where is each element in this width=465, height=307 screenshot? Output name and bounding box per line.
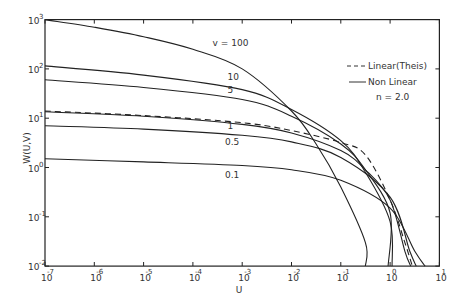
y-tick-exponent: 0 [39,161,43,169]
y-tick-label: 10 [28,213,40,223]
y-tick-label: 10 [28,164,40,174]
x-axis-label: U [236,285,243,295]
y-tick-label: 10 [28,65,40,75]
nonlinear-curve [45,20,367,267]
legend: Linear(Theis) Non Linear n = 2.0 [347,61,427,102]
y-tick-exponent: 2 [39,62,43,70]
y-axis-label: W(U,V) [22,132,32,164]
legend-nonlinear-label: Non Linear [368,77,417,87]
curve-label: 1 [227,121,233,131]
x-tick-exponent: -2 [294,268,301,276]
nonlinear-curve [45,112,411,266]
x-tick-exponent: 1 [441,268,445,276]
curve-label: 0.5 [225,137,239,147]
y-tick-exponent: -2 [39,259,46,267]
y-tick-exponent: 1 [39,111,43,119]
x-tick-exponent: -6 [96,268,104,276]
curve-label: 5 [227,85,233,95]
x-axis-ticks: 10-710-610-510-410-310-210-1100101 [41,20,447,283]
curve-label: 10 [227,72,239,82]
type-curve-chart: 10-710-610-510-410-310-210-1100101 10310… [0,0,465,307]
plot-frame [45,20,439,267]
curve-label: 0.1 [225,170,239,180]
y-tick-label: 10 [28,16,40,26]
y-tick-label: 10 [28,262,40,272]
x-tick-exponent: -1 [343,268,350,276]
x-tick-exponent: 0 [392,268,396,276]
x-tick-exponent: -3 [244,268,251,276]
y-tick-exponent: -1 [39,210,46,218]
curve-label: v = 100 [213,38,249,48]
nonlinear-curve [45,80,391,266]
x-tick-exponent: -5 [146,268,153,276]
y-tick-label: 10 [28,114,40,124]
x-tick-exponent: -7 [47,268,54,276]
legend-linear-label: Linear(Theis) [368,61,427,71]
x-tick-exponent: -4 [195,268,203,276]
legend-note: n = 2.0 [376,92,410,102]
curve-labels: v = 10010510.50.1 [213,38,249,180]
y-tick-exponent: 3 [39,13,43,21]
